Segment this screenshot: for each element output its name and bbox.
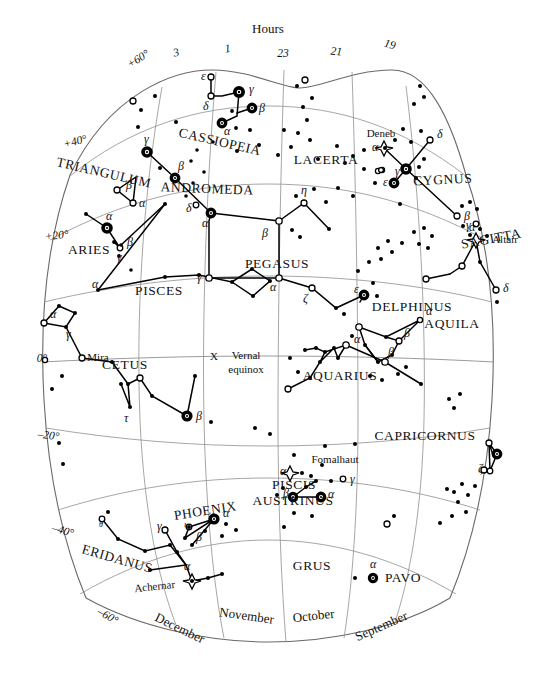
dec-label-p40: +40° [62,132,88,150]
star-cap-tail-b [487,468,493,474]
constellation-label-andromeda: ANDROMEDA [160,179,254,197]
star-tri-gamma-and [142,147,152,157]
bayer-eri-alpha: α [184,559,191,573]
star-aql-gamma [459,263,465,269]
bayer-ari-beta: β [126,235,133,249]
star-aqr-lower [285,386,291,392]
star-cap-alpha [417,317,422,322]
vernal-equinox-marker: X Vernal equinox [210,349,264,375]
constellation-label-pavo: PAVO [385,570,421,585]
bayer-tri-beta: β [125,178,132,192]
bayer-psa-gamma: γ [350,472,355,486]
bayer-aql-gamma-dup: γ [466,218,471,232]
bayer-cas-gamma: γ [249,82,254,96]
star-lac-open-a [302,77,308,83]
star-cet-zeta [137,375,143,381]
star-and-delta [193,202,199,208]
bayer-cet-gamma: γ [66,327,71,341]
bayer-aqr-alpha: α [354,332,361,346]
bayer-peg-eta: η [301,183,307,197]
star-eri-gamma [162,527,168,533]
star-tri-alpha [130,200,136,206]
bayer-aqr-beta: β [387,345,394,359]
month-september: September [353,607,411,644]
star-chart-canvas: Hours 3 1 23 21 19 +60° +40° +20° 0° –20… [0,0,536,676]
star-cap-tail-a [486,440,492,446]
star-cap-far-bright [492,449,501,458]
bayer-cap-alpha: α [426,304,433,318]
bayer-gru-alpha: α [328,487,335,501]
star-chart: Hours 3 1 23 21 19 +60° +40° +20° 0° –20… [0,0,536,676]
star-points [41,74,502,589]
constellation-label-pisces: PISCES [135,283,183,298]
star-peg-eta [301,200,307,206]
bayer-phe-alpha: α [223,506,230,520]
star-cyg-gamma [401,164,411,174]
bayer-and-gamma: γ [144,132,149,146]
star-cap-beta [396,338,402,344]
hour-tick-19: 19 [383,37,397,51]
hour-tick-1: 1 [224,42,231,55]
bayer-phe-beta: β [195,530,202,544]
bayer-cas-alpha: α [224,124,231,138]
star-cet-omicron-mira [79,355,85,361]
dec-label-m20: –20° [36,428,61,443]
star-cyg-delta [427,137,433,143]
bayer-and-alpha: α [202,216,209,230]
bayer-pav-alpha: α [370,557,377,571]
star-ari-alpha [102,223,112,233]
bayer-cet-tau: τ [124,411,129,425]
star-cas-field-open [130,98,136,104]
bayer-del-epsilon: ε [354,282,359,296]
star-cas-gamma [234,87,244,97]
star-aql-lower [423,276,429,282]
bayer-cet-alpha: α [50,307,57,321]
star-pav-alpha [369,574,378,583]
label-achernar: Achernar [134,578,176,594]
bayer-cet-beta: β [195,409,202,423]
bayer-cyg-epsilon: ε [383,175,388,189]
star-cyg-beta [454,213,460,219]
constellation-label-eridanus: ERIDANUS [80,541,154,576]
constellation-label-piscis: PISCIS [272,477,316,492]
constellation-label-triangulum: TRIANGULUM [55,154,153,190]
bayer-cyg-delta: δ [437,127,443,141]
month-november: November [218,604,275,627]
bayer-and-delta: δ [186,201,192,215]
star-del-epsilon [359,290,368,299]
star-cet-west-open [42,357,47,362]
hour-tick-21: 21 [330,45,343,58]
bayer-gru-beta: β [282,486,289,500]
constellation-label-aquarius: AQUARIUS [303,368,378,383]
dec-label-p20: +20° [44,228,69,242]
star-aqr-alpha [343,342,349,348]
bayer-eri-gamma: γ [157,519,162,533]
constellation-label-cetus: CETUS [102,357,148,372]
constellation-label-grus: GRUS [293,558,331,573]
bayer-psc-alpha: α [92,277,99,291]
month-october: October [292,606,336,625]
bayer-cas-delta: δ [203,99,209,113]
star-pavo-region-open [384,521,390,527]
star-aql-delta [493,287,499,293]
hour-tick-23: 23 [277,47,289,59]
star-tri-beta [114,187,120,193]
star-peg-alpha [276,275,282,281]
constellation-label-aquila: AQUILA [424,316,479,331]
constellation-label-aries: ARIES [68,242,110,257]
label-deneb: Deneb [367,127,396,139]
hour-tick-3: 3 [171,46,181,59]
star-cet-beta [182,411,192,421]
constellation-label-austrinus: AUSTRINUS [252,493,333,508]
star-peg-zeta [309,285,315,291]
star-cyg-epsilon [389,178,398,187]
bayer-ari-gamma: γ [117,250,122,264]
star-cet-alpha [41,320,47,326]
bayer-peg-zeta: ζ [303,291,309,305]
bayer-cyg-gamma: γ [395,164,400,178]
constellation-label-delphinus: DELPHINUS [372,299,452,314]
star-aqr-beta [382,359,388,365]
bayer-ari-alpha: α [106,209,113,223]
star-cas-epsilon [208,74,214,80]
bayer-tri-alpha: α [139,196,146,210]
